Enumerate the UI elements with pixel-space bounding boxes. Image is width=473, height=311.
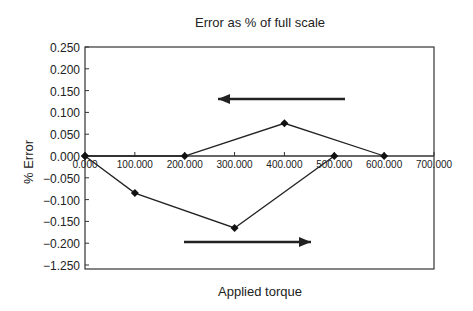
- y-tick-label: 0.100: [50, 106, 80, 120]
- x-axis: 0.000100.000200.000300.000400.000500.000…: [72, 152, 452, 170]
- y-tick-label: 0.150: [50, 85, 80, 99]
- y-tick-label: −0.150: [43, 215, 80, 229]
- arrow-right-icon: [299, 237, 311, 247]
- y-tick-label: −0.200: [43, 237, 80, 251]
- chart: Error as % of full scale 0.2500.2000.150…: [0, 0, 473, 311]
- y-tick-label: 0.250: [50, 41, 80, 55]
- y-tick-label: −1.250: [43, 259, 80, 273]
- y-tick-label: −0.100: [43, 194, 80, 208]
- y-tick-label: −0.050: [43, 172, 80, 186]
- x-tick-label: 700.000: [416, 159, 453, 170]
- x-tick-label: 100.000: [117, 159, 154, 170]
- direction-arrows: [184, 94, 345, 247]
- chart-title: Error as % of full scale: [195, 15, 325, 30]
- x-tick-label: 400.000: [266, 159, 303, 170]
- y-tick-label: 0.050: [50, 128, 80, 142]
- y-tick-label: 0.200: [50, 63, 80, 77]
- x-tick-label: 0.000: [72, 159, 97, 170]
- diamond-marker: [280, 119, 288, 127]
- arrow-left-icon: [218, 94, 230, 104]
- x-axis-label: Applied torque: [218, 284, 302, 299]
- x-tick-label: 200.000: [167, 159, 204, 170]
- x-tick-label: 600.000: [366, 159, 403, 170]
- y-axis-label: % Error: [21, 139, 36, 184]
- x-tick-label: 300.000: [216, 159, 253, 170]
- series-lines: [81, 119, 388, 232]
- series-line: [85, 123, 384, 156]
- plot-area: [85, 47, 434, 269]
